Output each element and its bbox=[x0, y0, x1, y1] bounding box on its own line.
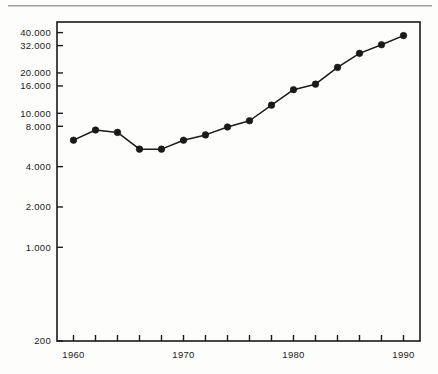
plot-frame bbox=[57, 22, 420, 341]
chart-figure: 2001.0002.0004.0008.00010.00016.00020.00… bbox=[0, 0, 438, 374]
data-point bbox=[334, 64, 341, 71]
x-tick-label: 1980 bbox=[282, 349, 304, 360]
y-tick-label: 20.000 bbox=[20, 67, 51, 78]
data-point bbox=[136, 146, 143, 153]
data-point bbox=[114, 129, 121, 136]
y-tick-label: 16.000 bbox=[20, 80, 51, 91]
x-tick-label: 1960 bbox=[62, 349, 84, 360]
data-point bbox=[356, 50, 363, 57]
y-tick-label: 4.000 bbox=[26, 161, 51, 172]
data-point bbox=[180, 137, 187, 144]
y-axis-ticks bbox=[57, 33, 63, 341]
x-tick-label: 1990 bbox=[392, 349, 414, 360]
y-tick-label: 1.000 bbox=[26, 242, 51, 253]
data-point bbox=[246, 117, 253, 124]
data-point bbox=[158, 146, 165, 153]
series-line bbox=[74, 36, 404, 150]
data-point bbox=[70, 137, 77, 144]
y-axis-tick-labels: 2001.0002.0004.0008.00010.00016.00020.00… bbox=[20, 27, 51, 346]
data-point bbox=[268, 102, 275, 109]
line-chart: 2001.0002.0004.0008.00010.00016.00020.00… bbox=[0, 0, 438, 374]
y-tick-label: 10.000 bbox=[20, 108, 51, 119]
y-tick-label: 8.000 bbox=[26, 121, 51, 132]
data-point bbox=[202, 132, 209, 139]
x-axis-tick-labels: 1960197019801990 bbox=[62, 349, 414, 360]
data-point bbox=[224, 124, 231, 131]
data-point bbox=[312, 81, 319, 88]
data-point bbox=[92, 127, 99, 134]
data-point bbox=[290, 86, 297, 93]
y-tick-label: 40.000 bbox=[20, 27, 51, 38]
data-point bbox=[378, 41, 385, 48]
y-tick-label: 200 bbox=[34, 335, 51, 346]
data-point bbox=[400, 32, 407, 39]
y-tick-label: 2.000 bbox=[26, 201, 51, 212]
y-tick-label: 32.000 bbox=[20, 40, 51, 51]
x-axis-ticks bbox=[74, 335, 404, 341]
x-tick-label: 1970 bbox=[172, 349, 194, 360]
